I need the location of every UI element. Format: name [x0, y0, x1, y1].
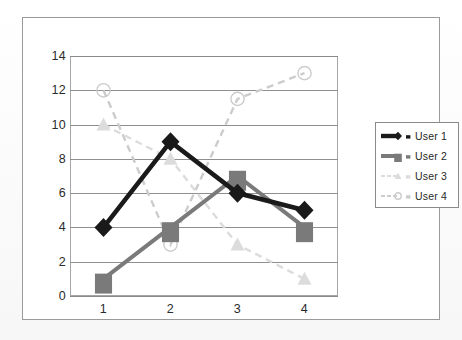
data-point-marker	[95, 274, 112, 294]
legend-item-label: User 3	[415, 170, 447, 182]
y-tick-label-6: 6	[26, 186, 66, 200]
legend-line-sample	[380, 150, 404, 162]
data-point-marker	[295, 201, 313, 220]
legend-item-label: User 1	[415, 130, 447, 142]
series-user-4	[97, 66, 311, 251]
legend-item-user-2[interactable]: User 2	[380, 146, 458, 166]
y-tick-label-2: 2	[26, 255, 66, 269]
y-tick-label-4: 4	[26, 220, 66, 234]
chart-screenshot: 02468101214 1234 User 1User 2User 3User …	[0, 0, 462, 340]
x-tick-label-1: 1	[89, 302, 119, 316]
data-point-marker	[162, 222, 179, 242]
legend-item-label: User 4	[415, 190, 447, 202]
legend-item-user-1[interactable]: User 1	[380, 126, 458, 146]
x-tick-label-2: 2	[156, 302, 186, 316]
plot-wrapper: 02468101214 1234	[70, 56, 338, 296]
legend-line-sample	[380, 190, 404, 202]
data-point-marker	[164, 152, 178, 165]
legend-line-sample	[380, 170, 404, 182]
legend-item-user-4[interactable]: User 4	[380, 186, 458, 206]
series-layer	[70, 56, 338, 296]
series-user-2	[95, 171, 313, 294]
data-point-marker	[231, 238, 245, 251]
gridline-0	[70, 296, 338, 297]
data-point-marker	[296, 222, 313, 242]
legend-marker-key	[404, 152, 413, 161]
x-tick-label-3: 3	[223, 302, 253, 316]
legend-marker-key	[404, 172, 413, 181]
y-tick-label-14: 14	[26, 49, 66, 63]
chart-legend: User 1User 2User 3User 4	[375, 122, 459, 208]
data-point-marker	[97, 118, 111, 131]
y-tick-label-0: 0	[26, 289, 66, 303]
chart-outer-frame: 02468101214 1234 User 1User 2User 3User …	[22, 17, 440, 320]
legend-line-sample	[380, 130, 404, 142]
series-line	[104, 73, 305, 245]
data-point-marker	[97, 84, 110, 97]
x-tick-label-4: 4	[290, 302, 320, 316]
legend-marker-key	[404, 192, 413, 201]
legend-item-label: User 2	[415, 150, 447, 162]
y-tick-label-10: 10	[26, 118, 66, 132]
series-line	[104, 142, 305, 228]
data-point-marker	[298, 272, 312, 285]
y-tick-label-8: 8	[26, 152, 66, 166]
legend-marker-key	[404, 132, 413, 141]
y-tick-label-12: 12	[26, 83, 66, 97]
legend-item-user-3[interactable]: User 3	[380, 166, 458, 186]
